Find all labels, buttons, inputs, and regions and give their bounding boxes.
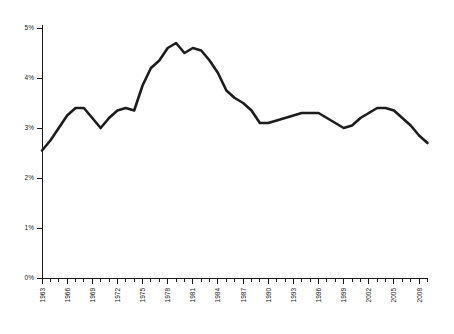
- x-axis-ticks: [42, 278, 427, 284]
- x-axis-tick-label: 1972: [114, 288, 121, 303]
- x-axis-tick-label: 1966: [64, 288, 71, 303]
- x-axis-tick-label: 2002: [365, 288, 372, 303]
- y-axis: 0%1%2%3%4%5%: [25, 24, 42, 281]
- x-axis-tick-label: 1990: [265, 288, 272, 303]
- y-axis-tick-label: 2%: [25, 174, 35, 181]
- x-axis-tick-label: 1969: [89, 288, 96, 303]
- x-axis-tick-label: 1975: [139, 288, 146, 303]
- line-chart: 0%1%2%3%4%5% 196319661969197219751978198…: [0, 0, 454, 334]
- y-axis-ticks: [37, 28, 42, 278]
- x-axis-tick-label: 1981: [189, 288, 196, 303]
- x-axis-tick-label: 1999: [340, 288, 347, 303]
- y-axis-tick-label: 0%: [25, 274, 35, 281]
- y-axis-tick-label: 1%: [25, 224, 35, 231]
- x-axis-tick-label: 2005: [390, 288, 397, 303]
- y-axis-tick-label: 4%: [25, 74, 35, 81]
- y-axis-tick-label: 3%: [25, 124, 35, 131]
- x-axis-tick-label: 1996: [315, 288, 322, 303]
- x-axis-tick-label: 1978: [164, 288, 171, 303]
- x-axis-tick-labels: 1963196619691972197519781981198419871990…: [39, 288, 423, 303]
- x-axis-tick-label: 2008: [416, 288, 423, 303]
- y-axis-tick-label: 5%: [25, 24, 35, 31]
- x-axis-tick-label: 1963: [39, 288, 46, 303]
- x-axis-tick-label: 1993: [290, 288, 297, 303]
- x-axis-tick-label: 1984: [214, 288, 221, 303]
- data-series-line: [42, 43, 427, 151]
- plot-area: [42, 43, 427, 151]
- chart-container: 0%1%2%3%4%5% 196319661969197219751978198…: [0, 0, 454, 334]
- y-axis-tick-labels: 0%1%2%3%4%5%: [25, 24, 35, 281]
- x-axis-tick-label: 1987: [240, 288, 247, 303]
- x-axis: 1963196619691972197519781981198419871990…: [39, 278, 428, 302]
